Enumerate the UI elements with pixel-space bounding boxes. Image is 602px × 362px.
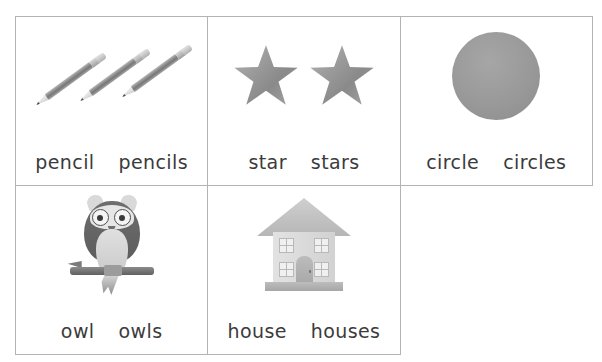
card-artwork-circle bbox=[401, 17, 592, 135]
card-artwork-house bbox=[208, 186, 399, 304]
plural-word: houses bbox=[311, 320, 381, 342]
picture-word-grid: pencil pencils bbox=[15, 16, 593, 355]
card-artwork-owl bbox=[16, 186, 207, 304]
pencils-icon bbox=[26, 28, 198, 124]
house-window bbox=[279, 238, 294, 253]
card-circle: circle circles bbox=[401, 17, 592, 185]
card-artwork-pencil bbox=[16, 17, 207, 135]
card-words-house: house houses bbox=[208, 320, 399, 342]
plural-word: circles bbox=[503, 151, 566, 173]
grid-cell-pencil[interactable]: pencil pencils bbox=[16, 17, 208, 186]
card-artwork-star bbox=[208, 17, 399, 135]
circle-icon bbox=[452, 32, 540, 120]
card-words-star: star stars bbox=[208, 151, 399, 173]
grid-row-top: pencil pencils bbox=[16, 17, 593, 186]
house-base bbox=[265, 282, 343, 291]
singular-word: star bbox=[248, 151, 286, 173]
house-icon bbox=[255, 194, 353, 296]
grid-cell-circle[interactable]: circle circles bbox=[400, 17, 592, 186]
owl-pupil-right bbox=[119, 215, 125, 221]
grid-cell-owl[interactable]: owl owls bbox=[16, 186, 208, 355]
singular-word: pencil bbox=[35, 151, 94, 173]
pencil-icon bbox=[78, 47, 152, 103]
house-window bbox=[279, 262, 294, 277]
plural-word: owls bbox=[119, 320, 163, 342]
singular-word: circle bbox=[426, 151, 479, 173]
card-pencil: pencil pencils bbox=[16, 17, 207, 185]
owl-tail bbox=[98, 273, 120, 295]
grid-row-bottom: owl owls bbox=[16, 186, 593, 355]
grid-cell-empty bbox=[400, 186, 592, 355]
pencil-icon bbox=[120, 43, 194, 99]
card-words-circle: circle circles bbox=[401, 151, 592, 173]
star-icon bbox=[233, 44, 299, 108]
card-words-pencil: pencil pencils bbox=[16, 151, 207, 173]
star-icon bbox=[309, 44, 375, 108]
house-window bbox=[314, 262, 329, 277]
owl-pupil-left bbox=[97, 215, 103, 221]
pencil-icon bbox=[34, 51, 108, 107]
plural-word: pencils bbox=[119, 151, 189, 173]
card-words-owl: owl owls bbox=[16, 320, 207, 342]
grid-cell-star[interactable]: star stars bbox=[208, 17, 400, 186]
grid-cell-house[interactable]: house houses bbox=[208, 186, 400, 355]
house-window bbox=[314, 238, 329, 253]
card-star: star stars bbox=[208, 17, 399, 185]
owl-feet bbox=[104, 265, 122, 276]
singular-word: owl bbox=[61, 320, 95, 342]
card-house: house houses bbox=[208, 186, 399, 354]
owl-icon bbox=[64, 193, 160, 297]
card-owl: owl owls bbox=[16, 186, 207, 354]
plural-word: stars bbox=[311, 151, 360, 173]
stars-icon bbox=[233, 44, 375, 108]
worksheet: pencil pencils bbox=[0, 0, 602, 362]
house-roof bbox=[257, 198, 351, 236]
singular-word: house bbox=[228, 320, 287, 342]
